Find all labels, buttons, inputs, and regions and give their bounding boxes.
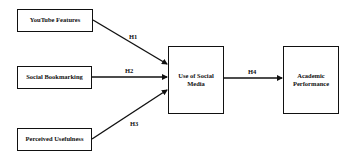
edge-h3-arrow <box>92 90 167 139</box>
node-label: Social Bookmarking <box>26 73 83 81</box>
node-academic-performance: Academic Performance <box>283 46 339 114</box>
edge-h1-arrow <box>93 20 167 64</box>
edge-label-h2: H2 <box>125 67 133 74</box>
edge-label-h4: H4 <box>248 68 256 75</box>
edge-label-h1: H1 <box>129 33 137 40</box>
edge-label-h3: H3 <box>130 120 138 127</box>
node-label: Use of Social Media <box>175 72 217 88</box>
node-label: Perceived Usefulness <box>26 135 84 143</box>
node-social-bookmarking: Social Bookmarking <box>17 66 92 89</box>
node-use-of-social-media: Use of Social Media <box>168 46 224 114</box>
node-youtube-features: YouTube Features <box>17 9 93 32</box>
node-perceived-usefulness: Perceived Usefulness <box>17 128 92 151</box>
node-label: YouTube Features <box>30 16 80 24</box>
node-label: Academic Performance <box>290 72 332 88</box>
